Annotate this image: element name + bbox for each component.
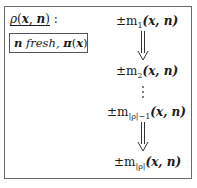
- msg-args: (x, n): [143, 64, 179, 78]
- rule-header: ρ(x, n) :: [10, 11, 58, 27]
- cond-arg: x: [76, 36, 83, 50]
- message-2: ±m2(x, n): [116, 63, 178, 84]
- double-down-arrow-icon: [137, 122, 149, 152]
- paren: ): [83, 36, 88, 50]
- cond-fresh: fresh,: [22, 36, 63, 50]
- condition-box: n fresh, π(x): [9, 33, 88, 53]
- rule-signature: ρ(x, n): [10, 12, 50, 26]
- msg-args: (x, n): [146, 155, 182, 169]
- msg-prefix: ±m: [116, 64, 137, 78]
- msg-prefix: ±m: [116, 14, 137, 28]
- vertical-ellipsis-icon: [140, 84, 146, 100]
- msg-args: (x, n): [143, 14, 179, 28]
- sep: ,: [29, 12, 37, 26]
- rule-name: ρ: [10, 12, 17, 26]
- double-down-arrow-icon: [137, 31, 149, 61]
- msg-subscript: |ρ|: [135, 162, 145, 171]
- cond-pi: π: [63, 36, 71, 50]
- msg-prefix: ±m: [114, 155, 135, 169]
- msg-prefix: ±m: [107, 105, 128, 119]
- arg-n: n: [37, 12, 46, 26]
- msg-args: (x, n): [150, 105, 186, 119]
- colon: :: [50, 12, 58, 26]
- arg-x: x: [22, 12, 29, 26]
- msg-subscript: |ρ|−1: [128, 112, 150, 121]
- message-last: ±m|ρ|(x, n): [114, 154, 181, 175]
